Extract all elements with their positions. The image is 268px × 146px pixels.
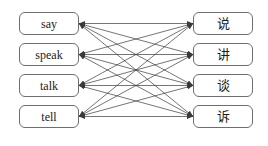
left-node-tell[interactable]: tell xyxy=(19,105,79,128)
left-node-label: talk xyxy=(40,80,58,92)
right-node-shuo[interactable]: 说 xyxy=(193,12,253,35)
left-node-say[interactable]: say xyxy=(19,12,79,35)
right-node-label: 说 xyxy=(217,17,230,30)
left-node-talk[interactable]: talk xyxy=(19,74,79,97)
left-node-label: tell xyxy=(41,111,56,123)
left-node-label: speak xyxy=(35,49,62,61)
right-node-su[interactable]: 诉 xyxy=(193,105,253,128)
right-node-label: 谈 xyxy=(217,79,230,92)
right-node-label: 讲 xyxy=(217,48,230,61)
left-node-speak[interactable]: speak xyxy=(19,43,79,66)
word-mapping-diagram: say speak talk tell 说 讲 谈 诉 xyxy=(0,0,268,146)
right-node-label: 诉 xyxy=(217,110,230,123)
left-node-label: say xyxy=(41,18,57,30)
right-node-jiang[interactable]: 讲 xyxy=(193,43,253,66)
right-node-tan[interactable]: 谈 xyxy=(193,74,253,97)
